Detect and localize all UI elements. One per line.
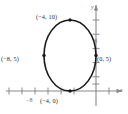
point-label-right: (0, 5)	[97, 56, 111, 62]
point-marker-top	[68, 18, 71, 21]
x-axis-label: x	[120, 87, 123, 93]
x-tick-label-neg8: −8	[26, 97, 32, 103]
y-tick-label-8: 8	[94, 38, 97, 44]
point-marker-bottom	[68, 89, 71, 92]
y-axis-label: y	[91, 4, 94, 10]
ellipse-figure: (−4, 10) (−8, 5) (0, 5) (−4, 0) −8 8 x y	[0, 0, 128, 114]
point-marker-left	[42, 54, 45, 57]
point-label-bottom: (−4, 0)	[40, 98, 58, 104]
point-label-left: (−8, 5)	[1, 56, 19, 62]
y-axis-arrow-icon	[94, 5, 98, 11]
point-label-top: (−4, 10)	[36, 14, 57, 20]
ellipse-curve	[44, 20, 96, 91]
point-markers	[42, 18, 97, 92]
